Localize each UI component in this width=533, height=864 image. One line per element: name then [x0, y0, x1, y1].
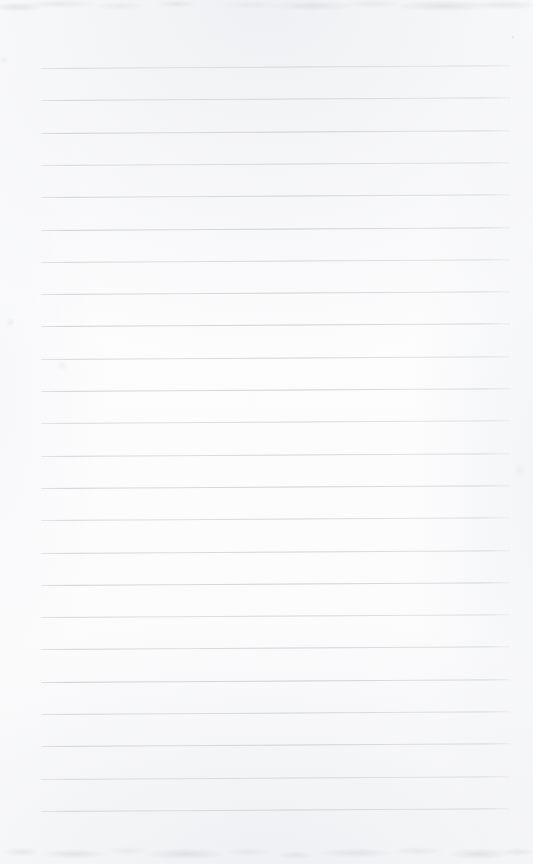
ruled-line [41, 743, 510, 747]
ruled-line [41, 453, 510, 457]
ruled-line [41, 97, 510, 101]
ruled-line [41, 517, 510, 521]
ruled-line [41, 679, 510, 683]
ruled-line [41, 647, 510, 651]
ruled-line [41, 291, 510, 295]
ruled-line [41, 614, 510, 618]
ruled-line [41, 130, 510, 134]
scanned-page [0, 0, 533, 864]
ruled-line [41, 388, 510, 392]
ruled-line [41, 356, 510, 360]
ruled-lines-layer [0, 0, 533, 864]
ruled-line [41, 259, 510, 263]
ruled-line [41, 776, 510, 780]
ruled-line [41, 485, 510, 489]
ruled-line [41, 65, 510, 69]
ruled-line [41, 420, 510, 424]
ruled-line [41, 711, 510, 715]
ruled-line [41, 808, 510, 812]
ruled-line [41, 194, 510, 198]
ruled-line [41, 582, 510, 586]
ruled-line [41, 550, 510, 554]
ruled-line [41, 162, 510, 166]
ruled-line [41, 227, 510, 231]
ruled-line [41, 324, 510, 328]
